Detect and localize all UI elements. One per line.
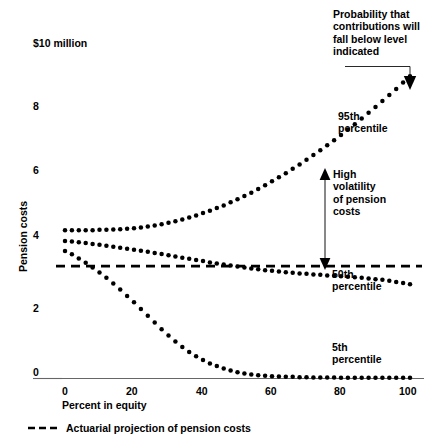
data-point bbox=[401, 281, 406, 286]
data-point bbox=[290, 271, 295, 276]
data-point bbox=[346, 376, 351, 381]
data-point bbox=[277, 374, 282, 379]
data-point bbox=[159, 252, 164, 257]
y-axis-tick-4: 4 bbox=[33, 229, 39, 241]
high-volatility-label: High volatility of pension costs bbox=[333, 168, 386, 218]
data-point bbox=[332, 138, 337, 143]
data-point bbox=[118, 245, 123, 250]
x-axis-tick-40: 40 bbox=[196, 385, 208, 397]
data-point bbox=[408, 282, 413, 287]
y-axis-tick-6: 6 bbox=[33, 164, 39, 176]
data-point bbox=[215, 261, 220, 266]
data-point bbox=[256, 267, 261, 272]
data-point bbox=[77, 240, 82, 245]
up-arrow-icon bbox=[320, 168, 331, 180]
data-point bbox=[249, 372, 254, 377]
data-point bbox=[318, 375, 323, 380]
data-point bbox=[242, 371, 247, 376]
data-point bbox=[194, 354, 199, 359]
data-point bbox=[380, 99, 385, 104]
data-point bbox=[270, 269, 275, 274]
data-point bbox=[77, 256, 82, 261]
data-point bbox=[263, 268, 268, 273]
data-point bbox=[118, 287, 123, 292]
down-arrow-icon bbox=[320, 258, 331, 270]
chart-figure: $10 million Pension costs 8 6 4 2 0 0 20… bbox=[0, 0, 435, 445]
data-point bbox=[215, 206, 220, 211]
data-point bbox=[173, 254, 178, 259]
data-point bbox=[180, 217, 185, 222]
data-point bbox=[373, 105, 378, 110]
data-point bbox=[90, 265, 95, 270]
data-point bbox=[359, 376, 364, 381]
data-point bbox=[118, 227, 123, 232]
data-point bbox=[125, 246, 130, 251]
data-point bbox=[221, 203, 226, 208]
data-point bbox=[152, 223, 157, 228]
data-point bbox=[401, 376, 406, 381]
data-point bbox=[387, 279, 392, 284]
data-point bbox=[318, 148, 323, 153]
data-point bbox=[235, 370, 240, 375]
data-point bbox=[70, 252, 75, 256]
data-point bbox=[166, 333, 171, 338]
probability-note-pointer bbox=[345, 67, 416, 91]
data-point bbox=[221, 262, 226, 267]
data-point bbox=[353, 376, 358, 381]
data-point bbox=[242, 265, 247, 270]
data-point bbox=[159, 222, 164, 227]
data-point bbox=[221, 366, 226, 371]
data-point bbox=[311, 272, 316, 277]
data-point bbox=[249, 266, 254, 271]
data-point bbox=[304, 158, 309, 163]
data-point bbox=[132, 226, 137, 231]
data-point bbox=[304, 272, 309, 277]
data-point bbox=[373, 376, 378, 381]
data-point bbox=[194, 258, 199, 263]
p50-percentile-label: 50th percentile bbox=[332, 268, 382, 293]
down-arrow-icon bbox=[404, 76, 416, 90]
data-point bbox=[387, 376, 392, 381]
plot-canvas bbox=[0, 0, 435, 445]
y-axis-title: Pension costs bbox=[17, 201, 29, 272]
data-point bbox=[146, 224, 151, 229]
data-point bbox=[125, 227, 130, 232]
data-point bbox=[263, 374, 268, 379]
data-point bbox=[83, 228, 88, 233]
data-point bbox=[97, 242, 102, 247]
data-point bbox=[284, 270, 289, 275]
data-point bbox=[173, 219, 178, 224]
data-point bbox=[166, 221, 171, 226]
data-point bbox=[194, 213, 199, 218]
data-point bbox=[387, 93, 392, 98]
volatility-spread-indicator bbox=[320, 168, 331, 270]
data-point bbox=[297, 162, 302, 167]
y-axis-tick-8: 8 bbox=[33, 100, 39, 112]
data-point bbox=[111, 227, 116, 232]
data-point bbox=[208, 361, 213, 366]
data-point bbox=[180, 255, 185, 260]
data-point bbox=[152, 251, 157, 256]
p95-percentile-label: 95th percentile bbox=[338, 110, 388, 135]
data-point bbox=[83, 241, 88, 246]
data-point bbox=[284, 171, 289, 176]
data-point bbox=[394, 87, 399, 92]
data-point bbox=[125, 294, 130, 299]
p5-percentile-label: 5th percentile bbox=[332, 341, 382, 366]
data-point bbox=[173, 339, 178, 344]
data-point bbox=[63, 249, 68, 254]
legend-entry-label: Actuarial projection of pension costs bbox=[66, 422, 251, 434]
data-point bbox=[394, 280, 399, 285]
data-point bbox=[166, 253, 171, 258]
data-point bbox=[201, 211, 206, 216]
data-point bbox=[215, 364, 220, 369]
data-point bbox=[339, 376, 344, 381]
data-point bbox=[187, 350, 192, 355]
data-point bbox=[208, 209, 213, 214]
data-point bbox=[270, 179, 275, 184]
data-point bbox=[77, 228, 82, 233]
data-point bbox=[97, 228, 102, 233]
data-point bbox=[152, 320, 157, 325]
probability-note: Probability that contributions will fall… bbox=[333, 8, 420, 58]
data-point bbox=[104, 276, 109, 281]
